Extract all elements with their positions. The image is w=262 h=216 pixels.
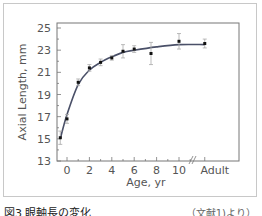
y-tick-label: 17 <box>37 111 51 124</box>
axial-length-chart: 13151719212325 0246810Adult Axial Length… <box>0 0 262 216</box>
y-tick-label: 19 <box>37 89 51 102</box>
y-axis-title: Axial Length, mm <box>16 44 29 141</box>
plot-area <box>57 23 239 161</box>
x-tick-label: 2 <box>86 164 93 177</box>
y-tick-label: 23 <box>37 44 51 57</box>
x-tick-label: 4 <box>108 164 115 177</box>
x-axis-title: Age, yr <box>126 176 166 189</box>
y-tick-label: 15 <box>37 133 51 146</box>
figure-source: （文献1)より） <box>186 205 256 216</box>
x-tick-label: Adult <box>200 164 229 177</box>
figure-caption: 図3 眼軸長の変化 <box>4 204 92 216</box>
y-tick-label: 25 <box>37 22 51 35</box>
y-tick-label: 13 <box>37 155 51 168</box>
y-tick-label: 21 <box>37 66 51 79</box>
x-tick-label: 0 <box>64 164 71 177</box>
x-tick-label: 10 <box>172 164 186 177</box>
